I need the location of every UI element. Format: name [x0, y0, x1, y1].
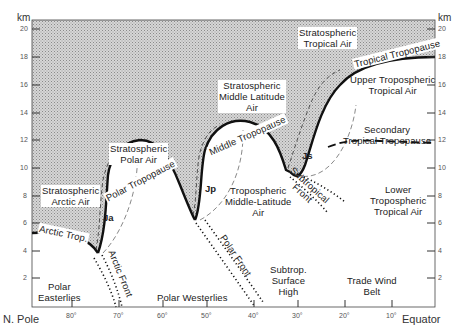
y-tick-left: 20 [20, 25, 28, 32]
y-tick-right: 20 [438, 25, 446, 32]
x-tick: 80° [66, 312, 77, 319]
stratospheric-middle-latitude-air-label: Stratospheric Middle Latitude Air [218, 80, 286, 113]
subtropical-surface-high-label: Subtrop. Surface High [270, 264, 307, 297]
polar-westerlies-label: Polar Westerlies [157, 292, 228, 303]
jet-polar-label: Jp [205, 183, 216, 194]
left-axis-unit: km [17, 12, 30, 23]
y-tick-left: 8 [23, 192, 27, 199]
y-tick-right: 16 [438, 81, 446, 88]
x-tick: 20° [339, 312, 350, 319]
right-axis-ticks [427, 29, 435, 278]
y-tick-left: 2 [23, 274, 27, 281]
stratospheric-tropical-air-label: Stratospheric Tropical Air [298, 27, 357, 49]
y-tick-left: 16 [20, 81, 28, 88]
tropospheric-middle-latitude-air-label: Tropospheric Middle-Latitude Air [225, 185, 291, 218]
x-tick: 30° [292, 312, 303, 319]
upper-tropospheric-tropical-air-label: Upper Tropospheric Tropical Air [350, 74, 435, 96]
y-tick-right: 10 [438, 164, 446, 171]
y-tick-left: 10 [20, 164, 28, 171]
y-tick-right: 18 [438, 53, 446, 60]
y-tick-right: 2 [438, 274, 442, 281]
y-tick-right: 14 [438, 109, 446, 116]
x-tick: 10° [386, 312, 397, 319]
x-start-label: N. Pole [3, 313, 39, 325]
y-tick-left: 4 [23, 247, 27, 254]
stratospheric-polar-air-label: Stratospheric Polar Air [109, 143, 168, 165]
x-tick: 40° [248, 312, 259, 319]
right-axis-unit: km [438, 12, 451, 23]
y-tick-right: 12 [438, 136, 446, 143]
x-tick: 60° [157, 312, 168, 319]
y-tick-right: 4 [438, 247, 442, 254]
trade-wind-belt-label: Trade Wind Belt [347, 275, 397, 297]
polar-easterlies-label: Polar Easterlies [38, 281, 81, 303]
y-tick-left: 12 [20, 136, 28, 143]
x-tick: 50° [201, 312, 212, 319]
y-tick-left: 18 [20, 53, 28, 60]
stratospheric-arctic-air-label: Stratospheric Arctic Air [41, 185, 100, 207]
secondary-tropical-tropopause-label: Secondary Tropical Tropopause [343, 124, 431, 146]
jet-subtropical-label: Js [302, 150, 313, 161]
x-end-label: Equator [402, 313, 441, 325]
x-tick: 70° [113, 312, 124, 319]
jet-arctic-label: Ja [103, 212, 114, 223]
y-tick-right: 6 [438, 219, 442, 226]
y-tick-right: 8 [438, 192, 442, 199]
y-tick-left: 14 [20, 109, 28, 116]
lower-tropospheric-tropical-air-label: Lower Tropospheric Tropical Air [370, 184, 426, 217]
y-tick-left: 6 [23, 219, 27, 226]
